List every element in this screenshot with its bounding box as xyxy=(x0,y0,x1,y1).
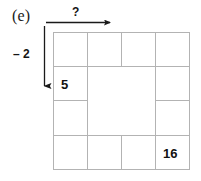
figure-container: (e) ? – 2 xyxy=(0,0,201,181)
cell-value-r4c4: 16 xyxy=(163,147,177,160)
cell-value-r2c1: 5 xyxy=(61,78,68,91)
